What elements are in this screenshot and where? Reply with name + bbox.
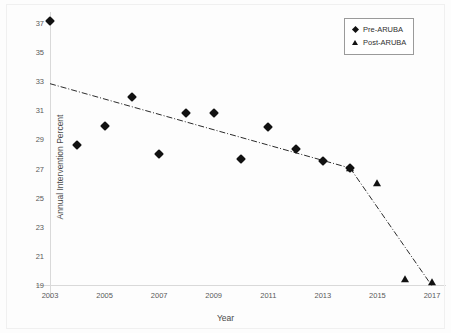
legend-item-post-aruba[interactable]: Post-ARUBA [350, 36, 406, 49]
pre-aruba-trend [50, 84, 350, 168]
triangle-marker-icon [350, 40, 360, 45]
x-axis-title: Year [0, 313, 451, 323]
x-tick-label: 2015 [369, 292, 386, 300]
x-tick-label: 2003 [42, 292, 59, 300]
legend-label: Pre-ARUBA [363, 26, 403, 34]
data-point-triangle [373, 179, 381, 186]
x-tick-label: 2009 [205, 292, 222, 300]
x-tick-label: 2011 [260, 292, 276, 300]
x-tick-label: 2013 [315, 292, 332, 300]
data-point-triangle [401, 275, 409, 282]
post-aruba-trend [350, 168, 432, 286]
y-tick-label: 25 [36, 195, 44, 203]
legend-item-pre-aruba[interactable]: Pre-ARUBA [350, 23, 406, 36]
y-tick-label: 37 [36, 20, 44, 28]
legend-label: Post-ARUBA [363, 39, 406, 47]
plot-area: 19212325272931333537 2003200520072009201… [50, 24, 432, 286]
y-tick-label: 31 [36, 108, 44, 116]
x-tick-label: 2007 [151, 292, 168, 300]
y-tick-label: 19 [36, 282, 44, 290]
y-tick-label: 33 [36, 78, 44, 86]
x-tick-label: 2005 [96, 292, 113, 300]
diamond-marker-icon [350, 27, 360, 32]
y-tick-label: 35 [36, 49, 44, 57]
x-tick-label: 2017 [424, 292, 441, 300]
chart-legend: Pre-ARUBA Post-ARUBA [344, 18, 414, 55]
y-tick-label: 21 [36, 253, 44, 261]
y-tick-label: 23 [36, 224, 44, 232]
chart-figure: Annual Intervention Percent 192123252729… [0, 0, 451, 333]
data-point-triangle [428, 278, 436, 285]
y-tick-label: 27 [36, 166, 44, 174]
data-point-triangle [346, 164, 354, 171]
y-tick-label: 29 [36, 137, 44, 145]
